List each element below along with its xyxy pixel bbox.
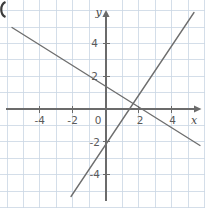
- y-tick-label-2: 2: [91, 70, 98, 82]
- x-axis-label: x: [191, 114, 198, 127]
- x-tick-label-4: 4: [169, 114, 176, 126]
- y-tick-label--2: -2: [90, 136, 100, 148]
- plot-background: [0, 0, 205, 208]
- x-tick-label--2: -2: [67, 114, 77, 126]
- x-tick-label--4: -4: [35, 114, 46, 126]
- y-tick-label-4: 4: [91, 37, 98, 49]
- coordinate-plane-figure: -4 -2 0 2 4 4 2 -2 -4 x y: [0, 0, 205, 208]
- y-tick-label--4: -4: [90, 168, 101, 180]
- graph-canvas: -4 -2 0 2 4 4 2 -2 -4 x y: [0, 0, 205, 208]
- y-axis-label: y: [94, 6, 102, 19]
- x-tick-label-2: 2: [137, 114, 144, 126]
- x-tick-label-0: 0: [95, 114, 102, 126]
